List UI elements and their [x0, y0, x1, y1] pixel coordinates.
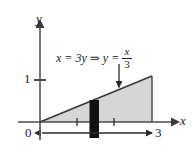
- figure-container: y x 1 0 3 x = 3y ⇒ y = x 3: [0, 0, 196, 157]
- fraction-numerator: x: [123, 46, 132, 58]
- x-end-label-3: 3: [155, 126, 162, 139]
- fraction-denominator: 3: [122, 59, 132, 71]
- equation-lhs: x = 3y: [56, 51, 87, 66]
- implies-symbol: ⇒: [89, 51, 101, 66]
- y-tick-label-1: 1: [24, 72, 31, 85]
- equation-annotation: x = 3y ⇒ y = x 3: [56, 46, 132, 70]
- x-axis-arrowhead: [171, 118, 180, 127]
- fraction-x-over-3: x 3: [122, 46, 132, 70]
- equation-rhs-lead: y =: [103, 51, 119, 66]
- origin-label: 0: [25, 126, 32, 139]
- dimension-arrow-head-right: [146, 130, 153, 137]
- representative-strip: [90, 100, 100, 138]
- x-axis-label: x: [180, 114, 186, 127]
- annotation-arrow-head: [116, 81, 123, 89]
- y-axis-label: y: [36, 12, 42, 25]
